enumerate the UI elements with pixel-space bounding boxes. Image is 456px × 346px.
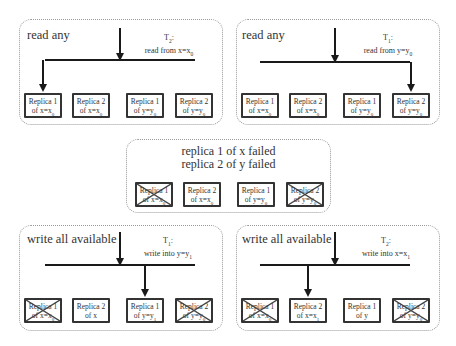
replica-value: of y=y0	[177, 106, 211, 118]
replica-value: of y	[345, 311, 379, 320]
replica-box: Replica 1of y	[343, 298, 381, 323]
replica-box: Replica 1of y=y1	[126, 298, 164, 323]
replica-box: Replica 1of x=x0	[24, 93, 62, 118]
replica-box-failed: Replica 2of y=y0	[392, 298, 430, 323]
replica-label: Replica 1	[239, 186, 273, 195]
failed-cross-icon	[288, 184, 322, 205]
replica-label: Replica 2	[74, 97, 108, 106]
replica-box: Replica 2of x=x0	[72, 93, 110, 118]
replica-box: Replica 2of y=y0	[175, 93, 213, 118]
replica-box-failed: Replica 2of y=y0	[175, 298, 213, 323]
failure-line: replica 1 of x failed	[182, 144, 276, 158]
transaction-action: write into y=y	[144, 249, 189, 258]
replica-value: of x=x1	[291, 311, 325, 323]
replica-box-failed: Replica 1of x=x0	[241, 298, 279, 323]
failure-line: replica 2 of y failed	[182, 157, 276, 171]
failed-cross-icon	[394, 300, 428, 321]
failed-cross-icon	[177, 300, 211, 321]
replica-box-failed: Replica 2of y=y0	[286, 182, 324, 207]
replica-value: of x	[74, 311, 108, 320]
replica-label: Replica 1	[345, 302, 379, 311]
replica-value: of x=x0	[74, 106, 108, 118]
panel-title: write all available	[242, 232, 332, 247]
replica-label: Replica 2	[177, 97, 211, 106]
failed-cross-icon	[243, 300, 277, 321]
replica-label: Replica 1	[345, 97, 379, 106]
replica-label: Replica 1	[243, 97, 277, 106]
transaction-label: T2: write into x=x1	[346, 236, 426, 261]
failure-description: replica 1 of x failed replica 2 of y fai…	[126, 145, 331, 171]
replica-box-failed: Replica 1of x=x0	[135, 182, 173, 207]
replica-value: of x=x0	[243, 106, 277, 118]
replica-label: Replica 2	[74, 302, 108, 311]
replica-box: Replica 2of y=y0	[392, 93, 430, 118]
replica-box: Replica 2of x=x0	[183, 182, 221, 207]
replica-box: Replica 1of y=y0	[343, 93, 381, 118]
replica-label: Replica 1	[128, 97, 162, 106]
replica-value: of y=y0	[394, 106, 428, 118]
replica-value: of y=y1	[128, 311, 162, 323]
panel-title: read any	[27, 28, 70, 43]
transaction-action: write into x=x	[362, 249, 407, 258]
transaction-label: T2: read from x=x0	[129, 33, 209, 58]
failed-cross-icon	[137, 184, 171, 205]
replica-box: Replica 1of y=y0	[126, 93, 164, 118]
replica-value: of x=x0	[185, 195, 219, 207]
panel-title: write all available	[27, 232, 117, 247]
replica-box-failed: Replica 1of x=x0	[24, 298, 62, 323]
replica-value: of y=y0	[345, 106, 379, 118]
replica-box: Replica 2of x=x1	[289, 298, 327, 323]
replica-value: of x=x0	[291, 106, 325, 118]
panel-title: read any	[242, 28, 285, 43]
replica-box: Replica 2of x	[72, 298, 110, 323]
transaction-label: T1: read from y=y0	[348, 33, 428, 58]
replica-box: Replica 1of x=x0	[241, 93, 279, 118]
replica-label: Replica 1	[26, 97, 60, 106]
replica-box: Replica 1of y=y0	[237, 182, 275, 207]
replica-label: Replica 1	[128, 302, 162, 311]
replica-value: of y=y0	[239, 195, 273, 207]
replica-label: Replica 2	[185, 186, 219, 195]
transaction-label: T1: write into y=y1	[128, 236, 208, 261]
failed-cross-icon	[26, 300, 60, 321]
transaction-action: read from x=x	[145, 46, 191, 55]
replica-value: of y=y0	[128, 106, 162, 118]
replica-box: Replica 2of x=x0	[289, 93, 327, 118]
transaction-action: read from y=y	[364, 46, 410, 55]
replica-label: Replica 2	[291, 302, 325, 311]
replica-label: Replica 2	[394, 97, 428, 106]
replica-label: Replica 2	[291, 97, 325, 106]
replica-value: of x=x0	[26, 106, 60, 118]
